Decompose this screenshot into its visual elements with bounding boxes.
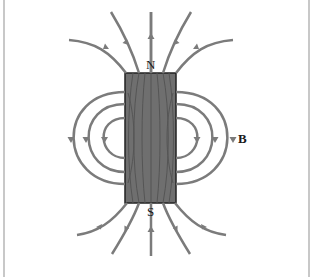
south-pole-label: S [147,205,154,218]
bar-magnet-diagram [0,0,314,277]
north-pole-label: N [146,58,155,71]
field-label-b: B [238,132,247,145]
bar-magnet [125,73,176,203]
